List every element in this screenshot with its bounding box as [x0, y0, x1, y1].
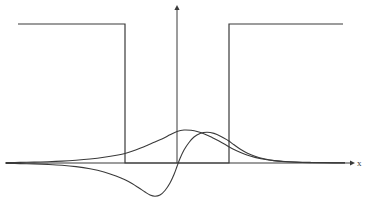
x-axis-arrowhead-icon: [350, 160, 355, 165]
y-axis-arrowhead-icon: [174, 5, 179, 10]
y-axis-group: [174, 5, 179, 163]
quantum-well-wavefunction-figure: x: [0, 0, 369, 205]
wavefunction-even-curve: [6, 130, 345, 163]
figure-container: x: [0, 0, 369, 205]
wavefunction-odd-curve: [6, 132, 345, 196]
x-axis-label: x: [357, 158, 362, 168]
potential-barrier-curve: [18, 24, 343, 163]
